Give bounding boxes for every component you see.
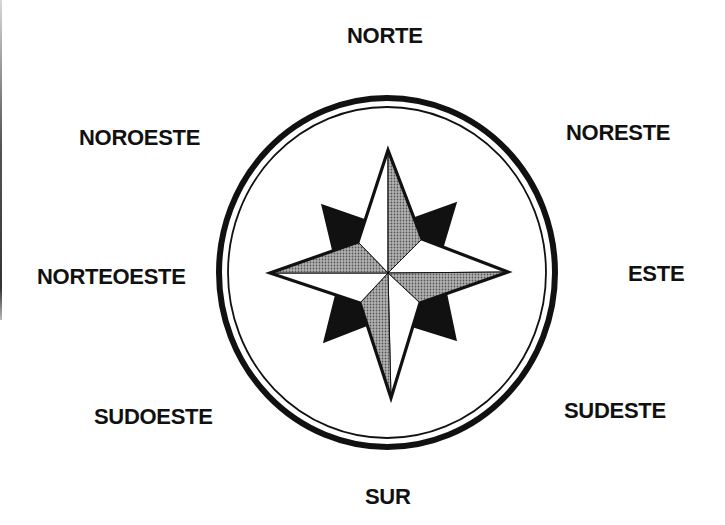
compass-rose — [0, 0, 725, 525]
main-star — [270, 150, 508, 398]
